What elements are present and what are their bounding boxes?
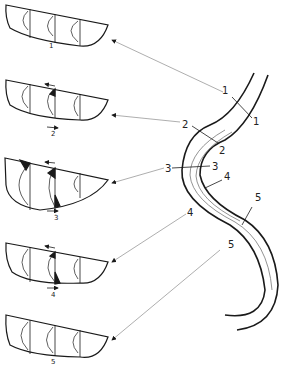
river-label-2b: 2 (219, 146, 225, 156)
river-label-3a: 3 (165, 164, 171, 174)
river-label-4a: 4 (224, 172, 230, 182)
cross-section-3 (5, 158, 108, 211)
cross-section-label-1: 1 (49, 43, 53, 50)
river-label-4b: 4 (187, 208, 193, 218)
cross-section-label-4: 4 (51, 292, 55, 299)
meander-diagram (0, 0, 284, 365)
river-label-1b: 1 (253, 117, 259, 127)
river-label-1a: 1 (222, 86, 228, 96)
cross-section-1 (6, 5, 108, 46)
river-label-3b: 3 (212, 162, 218, 172)
cross-section-5 (6, 315, 108, 357)
river-label-5a: 5 (255, 193, 261, 203)
cross-section-4 (6, 243, 108, 288)
river-label-2a: 2 (182, 120, 188, 130)
river-label-5b: 5 (228, 240, 234, 250)
cross-section-label-3: 3 (54, 215, 58, 222)
cross-section-2 (6, 80, 108, 128)
cross-section-label-2: 2 (51, 131, 55, 138)
river-banks (182, 73, 278, 330)
cross-section-label-5: 5 (51, 359, 55, 365)
